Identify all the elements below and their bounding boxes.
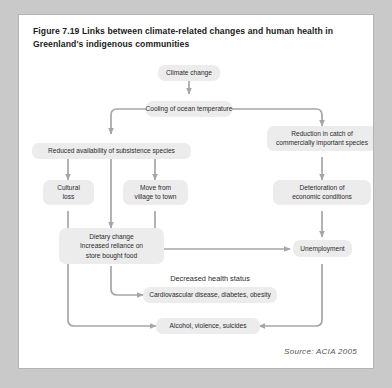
node-dietary-change[interactable]: Dietary change Increased reliance on sto… bbox=[59, 228, 164, 264]
node-climate-change[interactable]: Climate change bbox=[158, 65, 220, 81]
node-deterioration-economic[interactable]: Deterioration of economic conditions bbox=[273, 180, 371, 205]
node-dietary-change-line-1: Dietary change bbox=[89, 233, 134, 241]
node-alcohol-violence[interactable]: Alcohol, violence, suicides bbox=[156, 318, 260, 334]
node-dietary-change-line-3: store bought food bbox=[86, 252, 138, 260]
node-reduction-catch-line-1: Reduction in catch of bbox=[291, 130, 353, 137]
node-cardiovascular[interactable]: Cardiovascular disease, diabetes, obesit… bbox=[143, 287, 277, 303]
node-alcohol-violence-label: Alcohol, violence, suicides bbox=[170, 322, 248, 329]
edge-cooling-ocean-to-reduced-subsistence bbox=[111, 109, 146, 134]
edge-move-village-town-to-unemployment bbox=[155, 211, 290, 249]
edge-dietary-change-to-cardiovascular bbox=[111, 266, 143, 295]
node-unemployment[interactable]: Unemployment bbox=[293, 240, 352, 257]
node-climate-change-label: Climate change bbox=[166, 69, 212, 77]
figure-card: Figure 7.19 Links between climate-relate… bbox=[18, 14, 374, 369]
edge-cooling-ocean-to-reduction-catch bbox=[232, 109, 322, 126]
node-reduced-subsistence-label: Reduced availability of subsistence spec… bbox=[48, 147, 176, 155]
node-cultural-loss[interactable]: Cultural loss bbox=[43, 180, 94, 205]
node-move-village-town-line-2: village to town bbox=[135, 193, 177, 201]
node-move-village-town[interactable]: Move from village to town bbox=[123, 180, 188, 205]
node-deterioration-economic-line-2: economic conditions bbox=[292, 193, 352, 200]
label-decreased-health-status: Decreased health status bbox=[170, 274, 250, 283]
node-cultural-loss-line-2: loss bbox=[63, 193, 75, 200]
flow-diagram: Climate change Cooling of ocean temperat… bbox=[19, 15, 374, 369]
node-reduced-subsistence[interactable]: Reduced availability of subsistence spec… bbox=[32, 143, 191, 159]
figure-page: Figure 7.19 Links between climate-relate… bbox=[0, 0, 392, 388]
node-cooling-ocean-label: Cooling of ocean temperature bbox=[146, 105, 233, 113]
source-note: Source: ACIA 2005 bbox=[284, 347, 357, 356]
node-cooling-ocean[interactable]: Cooling of ocean temperature bbox=[146, 101, 233, 117]
node-unemployment-label: Unemployment bbox=[300, 245, 345, 253]
node-move-village-town-line-1: Move from bbox=[140, 184, 172, 191]
node-cultural-loss-line-1: Cultural bbox=[57, 184, 80, 191]
node-dietary-change-line-2: Increased reliance on bbox=[80, 242, 143, 249]
node-deterioration-economic-line-1: Deterioration of bbox=[299, 184, 344, 191]
node-cardiovascular-label: Cardiovascular disease, diabetes, obesit… bbox=[149, 291, 271, 299]
node-reduction-catch-line-2: commercially important species bbox=[276, 139, 369, 147]
node-reduction-catch[interactable]: Reduction in catch of commercially impor… bbox=[267, 126, 374, 151]
